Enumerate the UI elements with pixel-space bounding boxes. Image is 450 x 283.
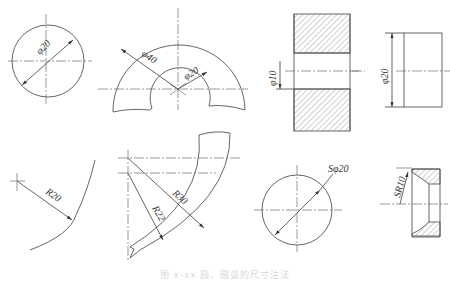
dim-label-r30: R30 [170,187,190,207]
dim-label-r20: R20 [43,185,63,204]
dim-label-phi20-cylinder: φ20 [379,68,390,84]
cylinder-side-view [352,33,450,107]
dim-label-phi20-arc: φ20 [182,64,201,81]
dim-label-sr10: SR10 [391,175,407,198]
figure-caption: 图 x-xx 圆、圆弧的尺寸注法 [0,268,450,281]
arc-diameters-view [98,8,248,112]
circle-diameter-view [8,14,92,106]
sphere-diameter-view [254,165,342,252]
dim-label-sphi20: Sφ20 [328,163,349,174]
hole-section-view [276,14,360,131]
dimensioning-drawing: φ20 φ40 φ20 φ10 φ20 R20 R30 R22 Sφ20 SR1… [0,0,450,283]
dim-label-phi40: φ40 [140,48,159,66]
dim-label-phi10: φ10 [267,70,278,86]
sphere-radius-section-view [380,168,448,237]
arc-radius-view [10,160,95,250]
dim-label-phi20-circle: φ20 [34,38,53,57]
